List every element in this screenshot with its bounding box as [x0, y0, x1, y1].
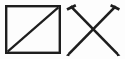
- line-drawing-svg: [0, 0, 125, 59]
- canvas-background: [0, 0, 125, 59]
- drawing-canvas: square with diagonal crossed nails Squar…: [0, 0, 125, 59]
